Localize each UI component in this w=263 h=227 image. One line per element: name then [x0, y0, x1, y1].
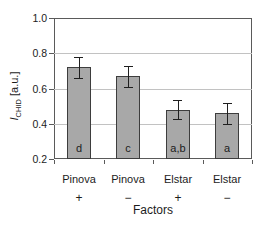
error-bar-cap	[74, 57, 83, 58]
category-label-elstar-minus: Elstar	[202, 173, 252, 186]
error-bar-cap	[124, 87, 133, 88]
error-bar-cap	[74, 78, 83, 79]
factor-sign-pinova-plus: +	[69, 192, 89, 204]
y-tick	[49, 124, 54, 125]
y-tick-label: 0.2	[25, 153, 47, 165]
significance-letter-pinova-plus: d	[64, 142, 94, 154]
bar-chart-figure: ICHID [a.u.] Factors 1.00.80.60.40.2dPin…	[0, 0, 263, 227]
y-axis-title: ICHID [a.u.]	[7, 26, 21, 166]
significance-letter-elstar-minus: a	[212, 142, 242, 154]
x-tick	[104, 160, 105, 164]
error-bar-elstar-plus	[178, 100, 179, 119]
significance-letter-pinova-minus: c	[113, 142, 143, 154]
error-bar-elstar-minus	[227, 103, 228, 124]
factor-sign-elstar-minus: −	[217, 192, 237, 204]
y-tick	[49, 53, 54, 54]
error-bar-pinova-minus	[128, 66, 129, 87]
x-tick	[203, 160, 204, 164]
error-bar-cap	[173, 119, 182, 120]
y-tick-label: 0.4	[25, 118, 47, 130]
x-tick	[54, 160, 55, 164]
factor-sign-elstar-plus: +	[168, 192, 188, 204]
y-tick	[49, 89, 54, 90]
y-tick-label: 0.8	[25, 47, 47, 59]
category-label-pinova-minus: Pinova	[103, 173, 153, 186]
x-tick	[252, 160, 253, 164]
error-bar-pinova-plus	[79, 57, 80, 78]
error-bar-cap	[223, 103, 232, 104]
y-tick-label: 0.6	[25, 83, 47, 95]
significance-letter-elstar-plus: a,b	[163, 142, 193, 154]
error-bar-cap	[223, 124, 232, 125]
category-label-pinova-plus: Pinova	[54, 173, 104, 186]
factor-sign-pinova-minus: −	[118, 192, 138, 204]
error-bar-cap	[173, 100, 182, 101]
error-bar-cap	[124, 66, 133, 67]
y-tick	[49, 18, 54, 19]
category-label-elstar-plus: Elstar	[153, 173, 203, 186]
x-tick	[153, 160, 154, 164]
y-tick-label: 1.0	[25, 12, 47, 24]
gridline	[54, 53, 252, 54]
x-axis-title: Factors	[113, 203, 193, 217]
